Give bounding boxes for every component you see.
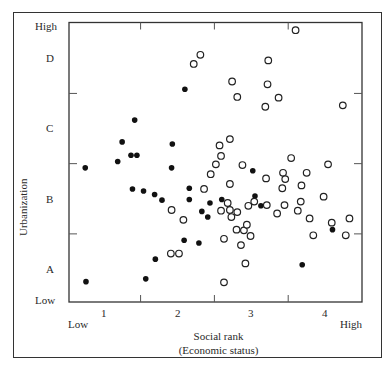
- open-data-point: [303, 169, 310, 176]
- data-points: [82, 27, 352, 286]
- open-data-point: [190, 61, 197, 68]
- x-tick-label-4: 4: [322, 307, 328, 319]
- open-data-point: [227, 207, 234, 214]
- open-data-point: [340, 102, 347, 109]
- open-data-point: [262, 103, 269, 110]
- filled-data-point: [130, 186, 136, 192]
- open-data-point: [168, 250, 175, 257]
- filled-data-point: [134, 152, 140, 158]
- open-data-point: [245, 202, 252, 209]
- open-data-point: [227, 136, 234, 143]
- filled-data-point: [83, 279, 89, 285]
- open-data-point: [238, 242, 245, 249]
- open-data-point: [239, 162, 246, 169]
- filled-data-point: [219, 197, 225, 203]
- x-axis-title: Social rank: [0, 330, 392, 342]
- x-tick-label-1: 1: [101, 307, 107, 319]
- open-data-point: [251, 198, 258, 205]
- filled-data-point: [181, 237, 187, 243]
- open-data-point: [201, 186, 208, 193]
- open-data-point: [306, 215, 313, 222]
- open-data-point: [328, 219, 335, 226]
- open-data-point: [264, 81, 271, 88]
- y-high-label: High: [35, 20, 57, 32]
- y-tick-label-a: A: [46, 263, 54, 275]
- open-data-point: [325, 161, 332, 168]
- open-data-point: [234, 209, 241, 216]
- y-axis-title: Urbanization: [17, 179, 29, 236]
- open-data-point: [274, 210, 281, 217]
- open-data-point: [218, 207, 225, 214]
- filled-data-point: [128, 152, 134, 158]
- filled-data-point: [299, 262, 305, 268]
- filled-data-point: [152, 192, 158, 198]
- open-data-point: [280, 169, 287, 176]
- open-data-point: [275, 94, 282, 101]
- open-data-point: [292, 27, 299, 34]
- filled-data-point: [115, 159, 121, 165]
- x-tick-label-3: 3: [248, 307, 254, 319]
- filled-data-point: [205, 214, 211, 220]
- open-data-point: [265, 57, 272, 64]
- open-data-point: [213, 161, 220, 168]
- open-data-point: [229, 78, 236, 85]
- open-data-point: [228, 214, 235, 221]
- filled-data-point: [153, 256, 159, 262]
- filled-data-point: [250, 168, 256, 174]
- filled-data-point: [207, 200, 213, 206]
- scatter-plot: [0, 0, 392, 369]
- x-low-label: Low: [68, 318, 88, 330]
- open-data-point: [224, 200, 231, 207]
- y-tick-label-d: D: [46, 52, 54, 64]
- open-data-point: [346, 215, 353, 222]
- open-data-point: [227, 181, 234, 188]
- filled-data-point: [119, 139, 125, 145]
- open-data-point: [320, 193, 327, 200]
- filled-data-point: [170, 141, 176, 147]
- open-data-point: [207, 171, 214, 178]
- open-data-point: [282, 176, 289, 183]
- open-data-point: [288, 155, 295, 162]
- open-data-point: [216, 142, 223, 149]
- open-data-point: [218, 153, 225, 160]
- filled-data-point: [258, 203, 264, 209]
- open-data-point: [221, 279, 228, 286]
- open-data-point: [263, 202, 270, 209]
- open-data-point: [298, 182, 305, 189]
- x-high-label: High: [340, 318, 362, 330]
- open-data-point: [197, 52, 204, 59]
- x-axis-subtitle: (Economic status): [0, 344, 392, 356]
- open-data-point: [281, 202, 288, 209]
- open-data-point: [180, 217, 187, 224]
- y-tick-label-c: C: [46, 122, 53, 134]
- open-data-point: [310, 232, 317, 239]
- filled-data-point: [82, 165, 88, 171]
- open-data-point: [242, 260, 249, 267]
- filled-data-point: [186, 185, 192, 191]
- filled-data-point: [169, 165, 175, 171]
- open-data-point: [234, 94, 241, 101]
- filled-data-point: [196, 240, 202, 246]
- open-data-point: [168, 207, 175, 214]
- open-data-point: [279, 185, 286, 192]
- open-data-point: [233, 226, 240, 233]
- filled-data-point: [182, 86, 188, 92]
- x-tick-label-2: 2: [175, 307, 181, 319]
- filled-data-point: [141, 188, 147, 194]
- y-low-label: Low: [35, 294, 55, 306]
- open-data-point: [297, 198, 304, 205]
- filled-data-point: [159, 197, 165, 203]
- filled-data-point: [186, 197, 192, 203]
- filled-data-point: [199, 209, 205, 215]
- open-data-point: [342, 232, 349, 239]
- open-data-point: [294, 207, 301, 214]
- filled-data-point: [330, 227, 336, 233]
- y-tick-label-b: B: [46, 193, 53, 205]
- filled-data-point: [143, 276, 149, 282]
- open-data-point: [176, 250, 183, 257]
- open-data-point: [244, 221, 251, 228]
- open-data-point: [263, 175, 270, 182]
- filled-data-point: [132, 117, 138, 123]
- open-data-point: [247, 233, 254, 240]
- open-data-point: [221, 235, 228, 242]
